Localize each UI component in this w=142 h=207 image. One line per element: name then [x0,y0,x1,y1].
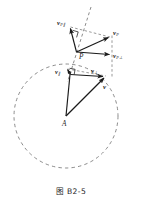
label-point-A: A [62,120,66,128]
vector-decomposition-figure [0,0,142,207]
label-vP-parallel: vP∥ [57,19,65,26]
label-vP: vP [113,29,119,36]
label-v-perp: v⊥ [91,67,98,74]
vector-vP [77,38,109,53]
parallelogram-top-dashed [71,27,111,37]
construction-line-normal [68,7,92,82]
label-point-P: P [79,53,83,61]
right-angle-marker-upper [73,30,79,37]
vector-v-parallel [68,70,71,75]
label-vP-perp: vP⊥ [113,52,123,59]
figure-caption: 图 B2-5 [0,185,142,196]
label-v-parallel: v∥ [55,68,60,75]
label-v: v [103,83,106,90]
vector-vP-parallel [70,29,76,53]
vector-v [66,78,104,116]
